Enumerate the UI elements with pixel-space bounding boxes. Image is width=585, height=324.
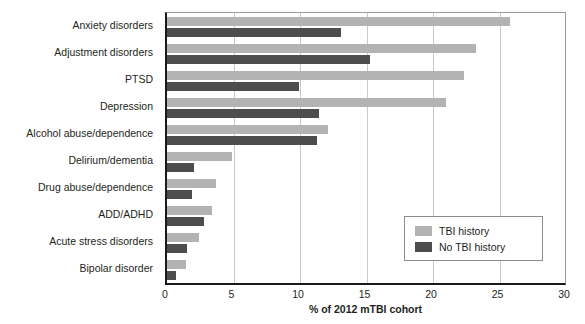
x-axis-tick-labels: 051015202530 — [0, 288, 585, 302]
legend-label: No TBI history — [439, 241, 505, 253]
x-tick-label: 5 — [229, 288, 235, 300]
y-axis-label: Adjustment disorders — [54, 47, 153, 58]
legend: TBI history No TBI history — [404, 216, 543, 261]
legend-swatch-no-tbi-history — [415, 242, 432, 252]
bar — [167, 55, 370, 64]
bar — [167, 136, 317, 145]
bar-group — [167, 67, 565, 94]
bar — [167, 28, 341, 37]
horizontal-bar-chart: Anxiety disordersAdjustment disordersPTS… — [0, 0, 585, 324]
bar-group — [167, 40, 565, 67]
x-tick-label: 0 — [162, 288, 168, 300]
y-axis-label: Alcohol abuse/dependence — [26, 128, 153, 139]
bar — [167, 190, 192, 199]
bar — [167, 271, 176, 280]
bar — [167, 152, 232, 161]
y-axis-label: PTSD — [125, 74, 153, 85]
bar — [167, 82, 299, 91]
bar — [167, 206, 212, 215]
legend-label: TBI history — [439, 225, 489, 237]
bar — [167, 179, 216, 188]
bar-spacer — [167, 188, 565, 190]
legend-swatch-tbi-history — [415, 226, 432, 236]
bar — [167, 217, 204, 226]
bar — [167, 17, 510, 26]
bar-group — [167, 149, 565, 176]
y-axis-label: Delirium/dementia — [68, 155, 153, 166]
bar — [167, 109, 319, 118]
y-axis-category-labels: Anxiety disordersAdjustment disordersPTS… — [0, 12, 160, 285]
x-tick-label: 15 — [359, 288, 371, 300]
y-axis-label: Depression — [100, 101, 153, 112]
bar — [167, 125, 328, 134]
y-axis-label: ADD/ADHD — [98, 209, 153, 220]
x-tick-label: 25 — [492, 288, 504, 300]
bar-spacer — [167, 269, 565, 271]
x-axis-title: % of 2012 mTBI cohort — [165, 303, 566, 315]
legend-item: No TBI history — [415, 239, 542, 255]
bar-group — [167, 94, 565, 121]
bar-group — [167, 176, 565, 203]
x-tick-label: 20 — [425, 288, 437, 300]
bar-group — [167, 121, 565, 148]
y-axis-label: Acute stress disorders — [49, 236, 153, 247]
x-tick-label: 30 — [558, 288, 570, 300]
legend-item: TBI history — [415, 223, 542, 239]
bar — [167, 244, 187, 253]
bar-spacer — [167, 161, 565, 163]
y-axis-label: Anxiety disorders — [72, 20, 153, 31]
x-tick-label: 10 — [292, 288, 304, 300]
y-axis-label: Drug abuse/dependence — [38, 182, 153, 193]
bar — [167, 163, 194, 172]
y-axis-label: Bipolar disorder — [79, 263, 153, 274]
bar — [167, 71, 464, 80]
bar — [167, 260, 186, 269]
bar — [167, 44, 476, 53]
bar — [167, 98, 446, 107]
bar — [167, 233, 199, 242]
bar-group — [167, 13, 565, 40]
